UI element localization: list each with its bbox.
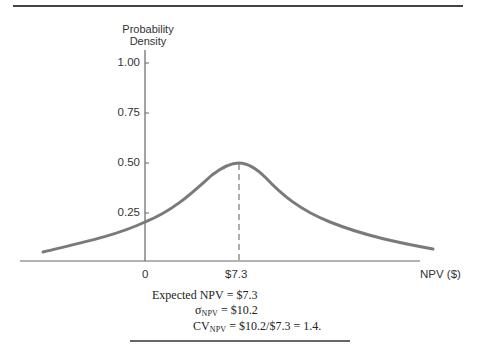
y-tick-0.75: 0.75 (100, 106, 140, 118)
y-tick-1.00: 1.00 (100, 56, 140, 68)
y-axis-label: Probability Density (113, 23, 183, 47)
sigma-npv-equation: σNPV = $10.2 (195, 303, 258, 318)
expected-npv-equation: Expected NPV = $7.3 (152, 288, 257, 303)
y-tick-0.50: 0.50 (100, 156, 140, 168)
x-tick-0: 0 (142, 268, 148, 280)
cv-npv-equation: CVNPV = $10.2/$7.3 = 1.4. (193, 319, 321, 334)
y-tick-0.25: 0.25 (100, 206, 140, 218)
bottom-rule (130, 340, 350, 342)
x-axis-label: NPV ($) (420, 268, 461, 280)
x-tick-mean: $7.3 (225, 268, 247, 280)
